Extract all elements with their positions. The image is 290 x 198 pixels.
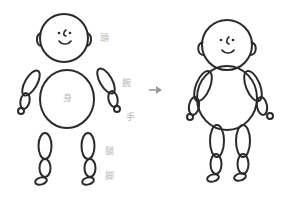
transform-arrow-icon: [149, 86, 162, 94]
label-arm: 腕: [122, 79, 131, 88]
assembled-left-arm: [187, 69, 215, 120]
label-thigh: 腿: [105, 147, 114, 156]
assembled-figure: [187, 20, 273, 183]
assembled-torso: [197, 66, 257, 130]
diagram-canvas: 頭 腕 身 手 腿 脚: [0, 0, 290, 198]
right-arm-part: [94, 66, 120, 112]
left-arm-part: [18, 68, 43, 114]
head-part: [37, 14, 91, 62]
label-head: 頭: [100, 34, 109, 43]
label-leg: 脚: [105, 172, 114, 181]
left-leg-part: [34, 133, 51, 186]
assembled-head: [198, 20, 256, 70]
assembled-left-leg: [206, 125, 224, 183]
right-leg-part: [81, 133, 95, 186]
label-body: 身: [63, 94, 72, 103]
figure-drawing: [0, 0, 290, 198]
label-hand: 手: [126, 113, 135, 122]
assembled-right-leg: [233, 125, 250, 182]
